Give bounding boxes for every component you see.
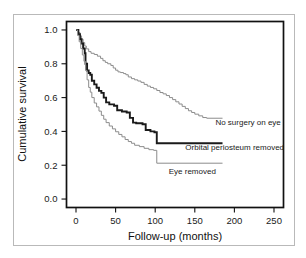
- x-axis-ticks: 050100150200250: [73, 208, 282, 226]
- x-tick-label: 0: [73, 215, 78, 226]
- series-label-eye-removed: Eye removed: [169, 167, 216, 176]
- y-tick-label: 0.6: [44, 92, 57, 103]
- y-tick-label: 0.4: [44, 126, 57, 137]
- x-tick-label: 200: [226, 215, 242, 226]
- plot-area-frame: [67, 22, 284, 208]
- figure-container: 0.00.20.40.60.81.0 050100150200250 No su…: [0, 0, 306, 258]
- y-tick-label: 1.0: [44, 24, 57, 35]
- x-tick-label: 250: [266, 215, 282, 226]
- series-label-orbital-periosteum-removed: Orbital periosteum removed: [185, 143, 284, 152]
- series-labels: No surgery on eyeOrbital periosteum remo…: [169, 118, 284, 176]
- y-tick-label: 0.2: [44, 160, 57, 171]
- y-tick-label: 0.0: [44, 193, 57, 204]
- x-tick-label: 50: [110, 215, 121, 226]
- curve-no-surgery-on-eye: [76, 30, 223, 118]
- x-tick-label: 150: [187, 215, 203, 226]
- x-tick-label: 100: [147, 215, 163, 226]
- series-label-no-surgery-on-eye: No surgery on eye: [215, 118, 281, 127]
- y-tick-label: 0.8: [44, 58, 57, 69]
- survival-chart: 0.00.20.40.60.81.0 050100150200250 No su…: [0, 0, 306, 258]
- y-axis-ticks: 0.00.20.40.60.81.0: [44, 24, 66, 204]
- x-axis-title: Follow-up (months): [128, 230, 222, 242]
- curve-orbital-periosteum-removed: [76, 30, 223, 143]
- y-axis-title: Cumulative survival: [16, 66, 28, 161]
